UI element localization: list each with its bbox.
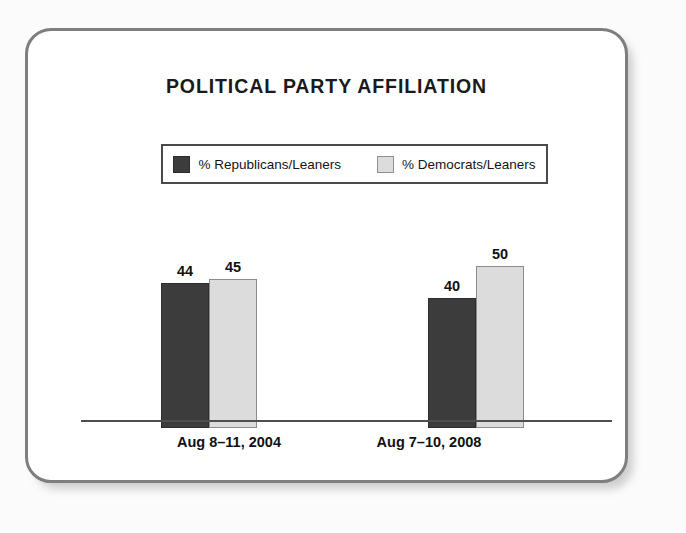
bar-republicans-2008: 40 [428,279,476,429]
bar-value-label: 44 [177,264,193,279]
bar-value-label: 40 [444,279,460,294]
legend-item-republicans: % Republicans/Leaners [173,156,341,173]
screenshot-root: POLITICAL PARTY AFFILIATION % Republican… [0,0,686,533]
legend-label-democrats: % Democrats/Leaners [402,157,536,172]
light-swatch-icon [377,156,394,173]
chart-card: POLITICAL PARTY AFFILIATION % Republican… [25,28,628,483]
category-label-2004: Aug 8–11, 2004 [133,434,325,450]
bar-democrats-2008: 50 [476,247,524,429]
bar-rect [428,298,476,428]
bar-democrats-2004: 45 [209,260,257,429]
axis-baseline [81,420,612,422]
chart-legend: % Republicans/Leaners % Democrats/Leaner… [161,144,548,184]
bar-value-label: 45 [225,260,241,275]
bar-group-2004: 44 45 [161,260,257,429]
plot-area: 44 45 40 50 [56,196,601,428]
bar-rect [476,266,524,428]
category-label-2008: Aug 7–10, 2008 [333,434,525,450]
legend-item-democrats: % Democrats/Leaners [377,156,536,173]
bar-group-2008: 40 50 [428,247,524,429]
bar-value-label: 50 [492,247,508,262]
bar-rect [161,283,209,428]
dark-swatch-icon [173,156,190,173]
bar-rect [209,279,257,428]
legend-label-republicans: % Republicans/Leaners [198,157,341,172]
bar-republicans-2004: 44 [161,264,209,429]
page-title: POLITICAL PARTY AFFILIATION [28,75,625,98]
